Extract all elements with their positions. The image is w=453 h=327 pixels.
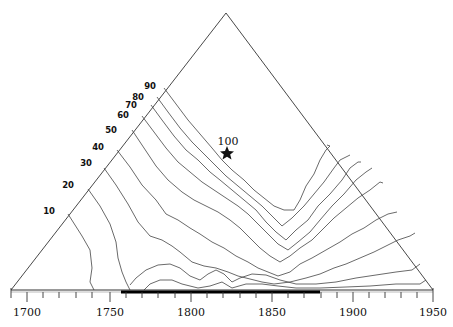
level-label-10: 10 (43, 206, 55, 216)
contour-20 (88, 189, 130, 290)
contour-level-labels: 10 20 30 40 50 60 70 80 90 (43, 81, 156, 216)
level-label-20: 20 (62, 180, 74, 190)
level-label-80: 80 (132, 92, 144, 102)
contour-70 (151, 105, 361, 240)
tick-label-1950: 1950 (419, 306, 447, 319)
x-axis: 1700 1750 1800 1850 1900 1950 (11, 288, 447, 319)
ternary-contour-chart: 1700 1750 1800 1850 1900 1950 10 20 30 4… (0, 0, 453, 327)
tick-label-1900: 1900 (339, 306, 367, 319)
peak-marker: 100 (218, 135, 239, 160)
star-icon (220, 146, 234, 160)
contour-10 (68, 214, 94, 290)
level-label-40: 40 (92, 142, 104, 152)
peak-label: 100 (218, 135, 239, 148)
tick-label-1750: 1750 (96, 306, 124, 319)
contour-50 (132, 130, 383, 262)
level-label-60: 60 (117, 110, 129, 120)
level-label-50: 50 (105, 125, 117, 135)
tick-label-1700: 1700 (13, 306, 41, 319)
contour-90 (164, 88, 330, 210)
contour-60 (142, 116, 372, 250)
level-label-30: 30 (80, 158, 92, 168)
level-label-90: 90 (144, 81, 156, 91)
tick-label-1850: 1850 (258, 306, 286, 319)
tick-label-1800: 1800 (177, 306, 205, 319)
contour-80 (157, 97, 350, 226)
